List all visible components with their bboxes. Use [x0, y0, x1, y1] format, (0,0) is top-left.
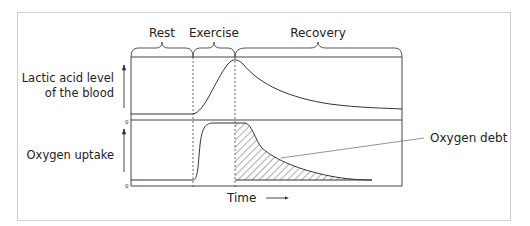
- y-label-lactic-1: Lactic acid level: [22, 71, 114, 85]
- zero-label-top: 0: [125, 119, 129, 125]
- time-arrow: [266, 197, 289, 200]
- y-label-oxygen: Oxygen uptake: [27, 148, 114, 162]
- phase-braces: [131, 42, 402, 57]
- x-axis-label: Time: [226, 191, 256, 205]
- oxygen-debt-diagram: Rest Exercise Recovery Lactic acid level…: [0, 0, 530, 226]
- oxygen-debt-label: Oxygen debt: [430, 131, 508, 145]
- phase-exercise-label: Exercise: [189, 26, 239, 40]
- phase-recovery-label: Recovery: [290, 26, 346, 40]
- oxygen-debt-area: [235, 123, 372, 180]
- zero-label-bottom: 0: [125, 183, 129, 189]
- lactic-acid-curve: [131, 60, 402, 114]
- y-label-lactic-2: of the blood: [45, 86, 114, 100]
- phase-rest-label: Rest: [149, 26, 175, 40]
- annotation-leader-line: [281, 138, 424, 158]
